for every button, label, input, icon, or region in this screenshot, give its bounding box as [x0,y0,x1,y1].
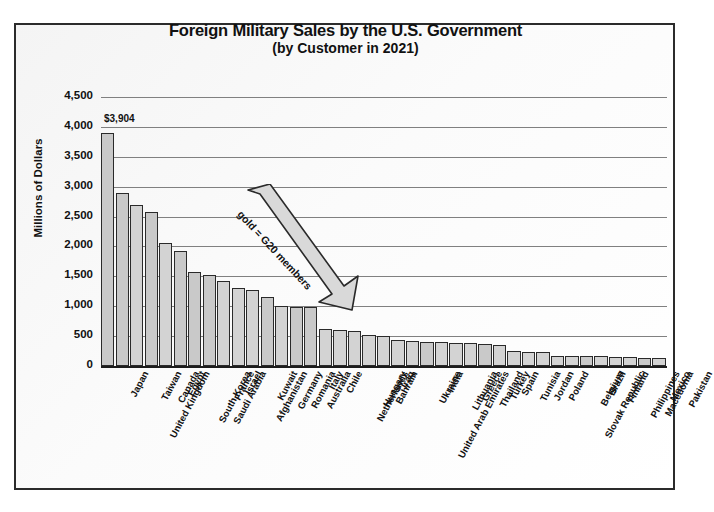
x-axis-line [101,366,667,368]
bar [145,212,158,366]
bar [493,345,506,366]
bar [449,343,462,366]
bar [391,340,404,366]
bar [638,358,651,366]
bar [304,307,317,366]
bar [275,306,288,366]
bar [319,329,332,366]
bar [232,288,245,366]
bar [406,341,419,366]
y-axis-tick-label: 1,500 [33,268,93,280]
bar [130,205,143,366]
bar [188,272,201,366]
bar [420,342,433,367]
bar [290,307,303,366]
bar [174,251,187,366]
y-axis-tick-label: 3,000 [33,179,93,191]
bar [623,357,636,366]
bar [507,351,520,366]
bar [159,243,172,366]
bar [464,343,477,366]
bar [101,133,114,366]
bar [217,281,230,366]
bar [565,356,578,366]
bar [580,356,593,366]
bar [377,336,390,366]
bar [536,352,549,366]
bar [246,290,259,366]
x-axis-tick-label: Japan [128,369,151,399]
y-axis-tick-label: 4,500 [33,89,93,101]
bar [609,357,622,366]
y-axis-tick-label: 2,500 [33,209,93,221]
y-axis-tick-label: 1,000 [33,298,93,310]
data-label-japan: $3,904 [104,113,135,124]
bar [116,193,129,366]
bar-series [101,97,667,366]
bar [594,356,607,366]
y-axis-tick-label: 3,500 [33,149,93,161]
bar [551,356,564,366]
bar [652,358,665,366]
y-axis-tick-label: 4,000 [33,119,93,131]
x-axis-tick-label: India [444,369,464,394]
y-axis-tick-label: 2,000 [33,238,93,250]
y-axis-tick-label: 0 [33,358,93,370]
x-axis-labels: JapanUnited KingdomTaiwanCanadaEgyptSout… [101,369,667,499]
bar [435,342,448,366]
bar [261,297,274,366]
bar [348,331,361,366]
bar [478,344,491,366]
bar [333,330,346,366]
bar [522,352,535,366]
y-axis-tick-label: 500 [33,328,93,340]
bar [362,335,375,366]
bar [203,275,216,366]
